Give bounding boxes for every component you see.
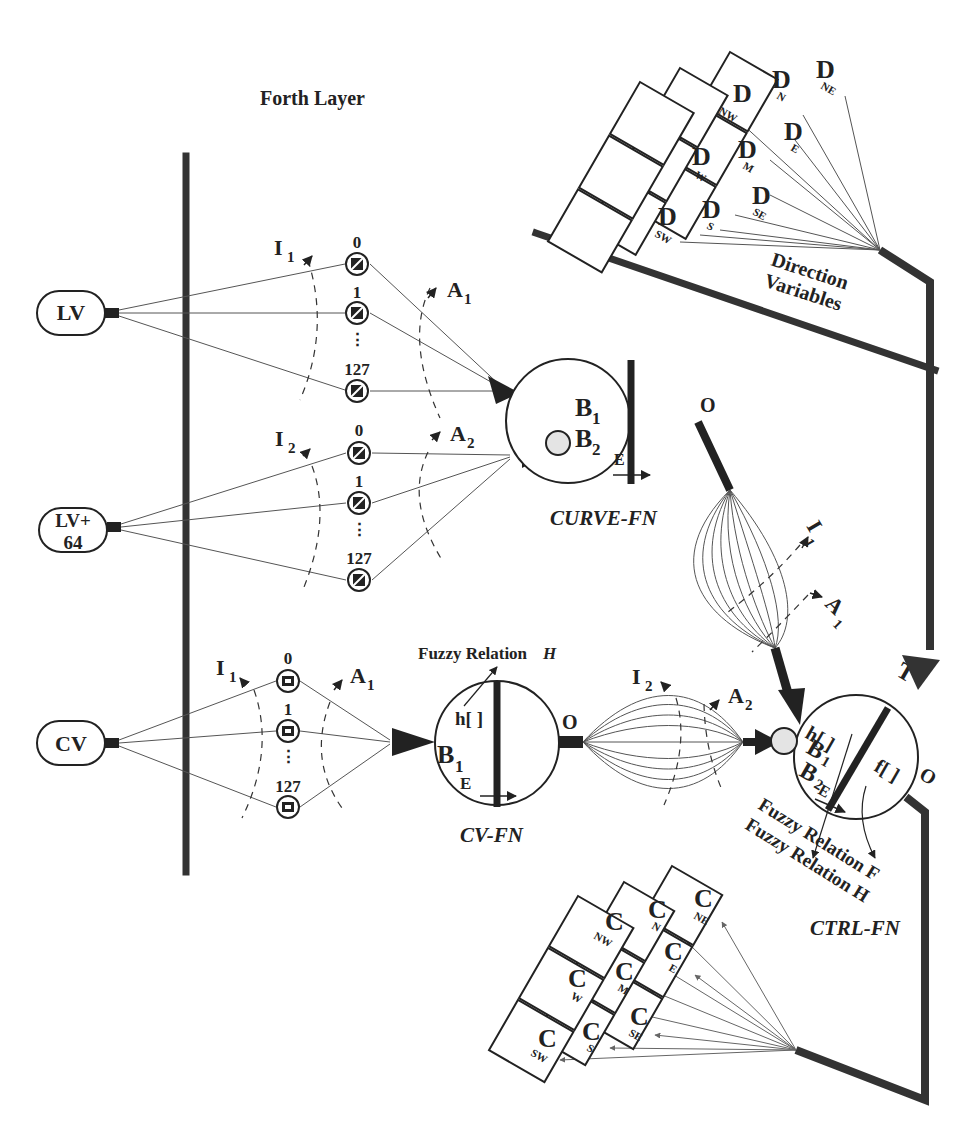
input-label-lv64-line2: 64: [64, 532, 84, 553]
neuron-icon: [277, 796, 299, 818]
output-label: O: [562, 711, 578, 733]
output-label: O: [700, 394, 716, 416]
curve-fn-output-connections: I 1 A 1: [694, 490, 850, 725]
fuzzy-relation-var: H: [542, 644, 557, 663]
input-arrow-icon: [392, 728, 435, 756]
cell-letter: C: [568, 964, 587, 993]
neuron-icon: [348, 442, 370, 464]
input-node-cv: CV: [37, 721, 119, 765]
input-b2-label: B: [575, 424, 592, 453]
neuron-index: 0: [284, 649, 293, 668]
activate-label: A: [728, 683, 744, 708]
inhibit-label: I: [632, 664, 641, 689]
activate-sub: 1: [464, 291, 472, 307]
neuron-icon: [346, 380, 368, 402]
enable-label: E: [460, 774, 471, 793]
arrow-icon: [240, 678, 246, 685]
activate-label: A: [350, 663, 366, 688]
input-arrow-icon: [778, 688, 805, 725]
inhibit-sub: 1: [287, 249, 295, 265]
forth-layer-grid: D NW D N D NE D W D M D E D SW D S D SE: [548, 52, 880, 272]
input-label-cv: CV: [55, 731, 87, 756]
neuron-index: 1: [353, 283, 362, 302]
activate-sub: 1: [367, 677, 375, 693]
output-layer-grid: C NW C N C NE C W C M C E C SW C S C SE: [489, 866, 796, 1082]
activate-label: A: [450, 421, 466, 446]
cv-fn-node: B 1 h[ ] E O Fuzzy Relation H CV-FN: [392, 644, 583, 847]
neuron-group-1: 0 1 ⋮ 127 I 1 A 1: [119, 233, 505, 418]
activate-label: A: [820, 591, 849, 620]
neuron-group-2: 0 1 ⋮ 127 I 2 A 2: [121, 421, 510, 592]
cell-letter: D: [733, 79, 752, 108]
input-b1-sub: 1: [592, 409, 601, 428]
cell-letter: D: [692, 142, 711, 171]
inhibit-label: I: [802, 516, 828, 536]
inhibit-sub: 1: [229, 669, 237, 685]
cv-fn-output-connections: I 2 A 2: [583, 664, 780, 805]
ctrl-fn-title: CTRL-FN: [810, 916, 901, 940]
input-label-lv: LV: [57, 300, 86, 325]
neuron-index: 127: [275, 777, 301, 796]
neuron-index: 1: [355, 472, 364, 491]
inhibitory-input-icon: [546, 431, 570, 455]
cell-letter: D: [752, 181, 771, 210]
neuron-icon: [346, 302, 368, 324]
arrow-icon: [661, 682, 667, 688]
cell-letter: C: [694, 884, 713, 913]
enable-label: E: [614, 451, 625, 468]
arrow-icon: [303, 449, 310, 456]
forth-layer-title: Forth Layer: [260, 87, 365, 110]
activate-sub: 2: [467, 435, 475, 451]
input-b1-label: B: [437, 740, 454, 769]
activate-sub: 2: [745, 697, 753, 713]
input-node-lv64: LV+ 64: [39, 508, 121, 553]
network-diagram: LV LV+ 64 CV 0 1 ⋮ 127 I 1 A: [0, 0, 966, 1137]
input-b1-label: B: [575, 393, 592, 422]
neuron-index: 127: [346, 549, 372, 568]
cell-letter: D: [784, 117, 803, 146]
neuron-group-3: 0 1 ⋮ 127 I 1 A 1: [119, 649, 390, 818]
inhibit-label: I: [216, 655, 225, 680]
arrow-icon: [810, 593, 822, 597]
fuzzy-relation-label: Fuzzy Relation: [418, 644, 528, 663]
arrow-icon: [334, 680, 342, 690]
neuron-index: 0: [353, 233, 362, 252]
neuron-index: 0: [355, 421, 364, 440]
inhibit-label: I: [274, 235, 283, 260]
curve-fn-title: CURVE-FN: [550, 506, 658, 530]
neuron-index: ⋮: [349, 330, 366, 349]
neuron-index: 1: [284, 700, 293, 719]
neuron-icon: [346, 253, 368, 275]
input-node-lv: LV: [37, 291, 119, 335]
curve-fn-node: B 1 B 2 E O CURVE-FN: [488, 359, 730, 530]
neuron-icon: [348, 492, 370, 514]
input-label-lv64-line1: LV+: [55, 510, 90, 531]
relation-h-label: h[ ]: [455, 708, 483, 729]
activate-label: A: [447, 277, 463, 302]
arrow-icon: [304, 256, 312, 265]
neuron-icon: [277, 670, 299, 692]
inhibit-sub: 1: [801, 536, 817, 550]
cell-letter: C: [605, 907, 624, 936]
neuron-icon: [277, 720, 299, 742]
inhibit-label: I: [275, 426, 284, 451]
input-b2-sub: 2: [592, 440, 601, 459]
neuron-index: 127: [344, 360, 370, 379]
neuron-index: ⋮: [280, 747, 297, 766]
cell-letter: D: [658, 202, 677, 231]
arrow-icon: [432, 432, 440, 440]
inhibitory-input-icon: [771, 728, 797, 754]
arrow-icon: [710, 700, 719, 710]
neuron-icon: [348, 569, 370, 591]
inhibit-sub: 2: [288, 440, 296, 456]
inhibit-sub: 2: [645, 678, 653, 694]
neuron-index: ⋮: [351, 520, 368, 539]
cv-fn-title: CV-FN: [460, 823, 524, 847]
output-label: O: [916, 762, 940, 789]
